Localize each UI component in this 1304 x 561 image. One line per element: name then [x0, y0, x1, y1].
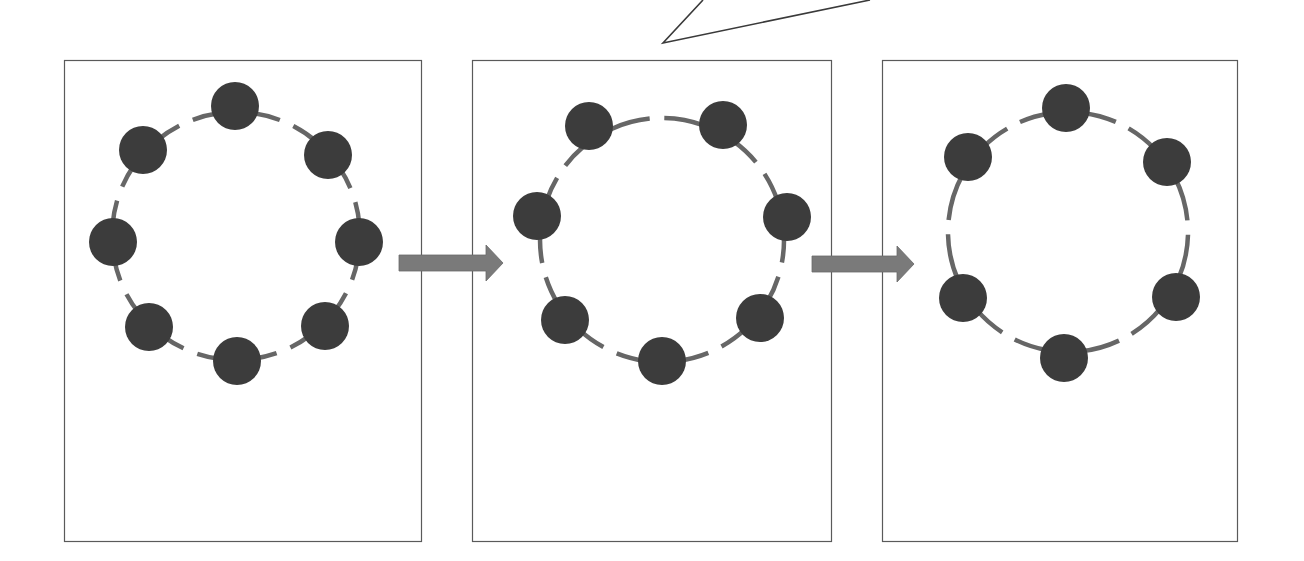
ring-transition-diagram: [0, 0, 1304, 561]
bead: [763, 193, 811, 241]
bead: [736, 294, 784, 342]
callout-pointer: [663, 0, 870, 43]
bead: [125, 303, 173, 351]
panel-frame: [473, 61, 832, 542]
bead: [541, 296, 589, 344]
panels: [65, 61, 1238, 542]
panel-frame: [65, 61, 422, 542]
bead: [89, 218, 137, 266]
bead: [638, 337, 686, 385]
callout-pointer-line: [663, 0, 870, 43]
bead: [213, 337, 261, 385]
panel-3: [883, 61, 1238, 542]
bead: [1040, 334, 1088, 382]
bead: [211, 82, 259, 130]
bead: [513, 192, 561, 240]
bead: [304, 131, 352, 179]
bead: [301, 302, 349, 350]
panel-2: [473, 61, 832, 542]
bead: [1042, 84, 1090, 132]
bead: [1152, 273, 1200, 321]
bead: [1143, 138, 1191, 186]
bead: [119, 126, 167, 174]
bead: [335, 218, 383, 266]
bead: [939, 274, 987, 322]
bead: [565, 102, 613, 150]
bead: [699, 101, 747, 149]
bead: [944, 133, 992, 181]
panel-1: [65, 61, 422, 542]
